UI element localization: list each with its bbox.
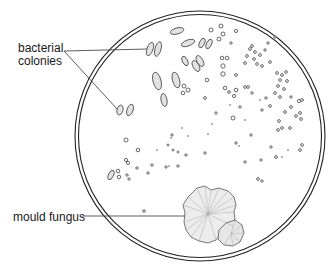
- leader-lines: [64, 49, 185, 216]
- bacterial-colonies-small: [116, 24, 303, 212]
- leader-line-bacteria-lower: [64, 51, 118, 110]
- bacterial-colonies-dots: [156, 99, 289, 167]
- mould-fungus: [183, 186, 244, 246]
- petri-dish-diagram: [0, 0, 333, 274]
- leader-line-bacteria-upper: [64, 49, 148, 51]
